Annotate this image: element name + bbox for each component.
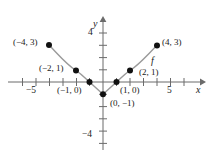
x-tick-label-neg5: −5 [26, 86, 36, 96]
point-label-0-neg1: (0, −1) [110, 99, 135, 108]
point-label-4-3: (4, 3) [162, 38, 182, 47]
y-axis [99, 16, 107, 150]
function-label: f [151, 56, 154, 66]
y-axis-label: y [93, 19, 97, 29]
data-point [127, 68, 133, 74]
point-label-2-1: (2, 1) [139, 68, 159, 77]
coordinate-plane-svg [0, 0, 210, 156]
data-point [87, 79, 93, 85]
point-label-neg2-1: (−2, 1) [39, 64, 64, 73]
point-label-neg4-3: (−4, 3) [13, 38, 38, 47]
y-tick-label-neg4: −4 [82, 130, 92, 140]
data-point [100, 91, 106, 97]
x-axis [8, 78, 206, 86]
data-point [73, 68, 79, 74]
point-label-neg1-0: (−1, 0) [57, 86, 82, 95]
graph-figure: y x 4 −4 −5 5 (−4, 3) (−2, 1) (−1, 0) (0… [0, 0, 210, 156]
point-label-1-0: (1, 0) [120, 86, 140, 95]
x-tick-label-5: 5 [167, 86, 172, 96]
x-axis-label: x [196, 85, 200, 95]
data-point [114, 79, 120, 85]
y-tick-label-4: 4 [88, 28, 93, 38]
data-point [154, 43, 160, 49]
data-point [46, 42, 52, 48]
